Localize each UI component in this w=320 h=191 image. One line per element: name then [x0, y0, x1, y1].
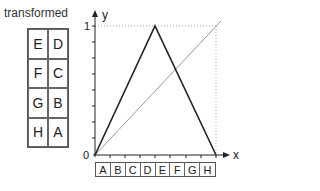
bottom-label: E — [156, 163, 171, 176]
bottom-label: B — [111, 163, 126, 176]
identity-line — [95, 21, 221, 155]
y-axis-label: y — [102, 8, 108, 22]
bottom-label: A — [96, 163, 111, 176]
bottom-label-row: A B C D E F G H — [95, 162, 216, 177]
x-axis-label: x — [233, 148, 239, 162]
bottom-label: F — [170, 163, 185, 176]
bottom-label: C — [126, 163, 141, 176]
y-max-label: 1 — [84, 20, 90, 32]
x-axis-arrow-icon — [223, 152, 230, 158]
bottom-label: D — [141, 163, 156, 176]
y-axis-arrow-icon — [92, 10, 98, 17]
bottom-label: H — [200, 163, 215, 176]
origin-label: 0 — [83, 149, 89, 161]
bottom-label: G — [185, 163, 200, 176]
